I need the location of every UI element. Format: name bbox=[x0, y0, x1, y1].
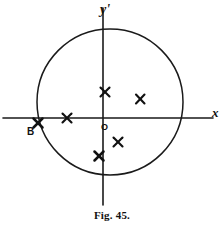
x-axis-label: x bbox=[212, 106, 219, 119]
origin-label: O bbox=[101, 123, 108, 132]
data-point-marker-2 bbox=[136, 95, 145, 104]
data-point-marker-1 bbox=[101, 88, 110, 97]
figure-caption: Fig. 45. bbox=[0, 210, 224, 221]
data-point-marker-b bbox=[34, 119, 43, 128]
data-point-marker-4 bbox=[114, 138, 123, 147]
data-point-marker-5 bbox=[95, 152, 104, 161]
circle-curve bbox=[37, 29, 183, 175]
figure-canvas bbox=[0, 0, 224, 230]
y-axis-label: y' bbox=[100, 3, 110, 17]
point-b-label: B bbox=[27, 127, 34, 137]
figure-container: y' x O B Fig. 45. bbox=[0, 0, 224, 230]
